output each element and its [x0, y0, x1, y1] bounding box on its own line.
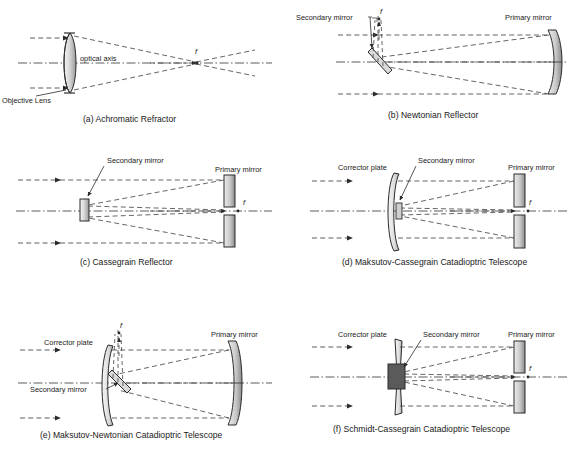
corrector-plate-label: Corrector plate [44, 338, 93, 347]
corrector-plate-label: Corrector plate [338, 330, 387, 339]
corrector-plate-label: Corrector plate [338, 163, 387, 172]
secondary-mirror-label: Secondary mirror [107, 156, 164, 165]
secondary-mirror-label: Secondary mirror [30, 385, 87, 394]
focus-marker [527, 210, 530, 213]
secondary-mirror [396, 203, 402, 219]
secondary-mirror-block [388, 364, 405, 389]
focus-marker [195, 61, 198, 64]
focus-marker [237, 210, 240, 213]
objective-lens-label: Objective Lens [2, 96, 51, 105]
focus-marker [378, 18, 381, 21]
optical-axis-label: optical axis [80, 54, 117, 63]
primary-mirror-label: Primary mirror [215, 165, 262, 174]
focus-marker [118, 332, 121, 335]
panel-d-caption: (d) Maksutov-Cassegrain Catadioptric Tel… [342, 257, 527, 267]
focus-marker [527, 376, 530, 379]
primary-mirror-label: Primary mirror [505, 13, 552, 22]
primary-mirror-label: Primary mirror [508, 330, 555, 339]
secondary-mirror-label: Secondary mirror [418, 156, 475, 165]
primary-mirror-label: Primary mirror [508, 163, 555, 172]
panel-e-caption: (e) Maksutov-Newtonian Catadioptric Tele… [40, 430, 223, 440]
secondary-mirror-label: Secondary mirror [423, 330, 480, 339]
panel-a-caption: (a) Achromatic Refractor [83, 114, 176, 124]
secondary-mirror-label: Secondary mirror [296, 13, 353, 22]
panel-f-caption: (f) Schmidt-Cassegrain Catadioptric Tele… [333, 424, 510, 434]
telescope-designs-figure: Objective Lens optical axis f (a) Achrom… [0, 0, 581, 451]
panel-b-caption: (b) Newtonian Reflector [388, 110, 478, 120]
objective-lens [64, 33, 76, 93]
secondary-mirror [80, 199, 89, 221]
panel-c-caption: (c) Cassegrain Reflector [80, 257, 173, 267]
primary-mirror-label: Primary mirror [211, 330, 258, 339]
